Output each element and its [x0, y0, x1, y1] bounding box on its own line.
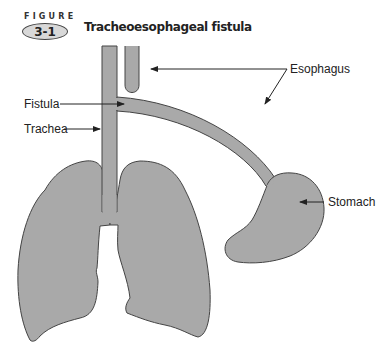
label-fistula: Fistula [24, 97, 60, 111]
label-stomach: Stomach [328, 195, 375, 209]
upper-esophagus [125, 46, 139, 93]
left-lung [18, 161, 110, 341]
right-lung [110, 161, 210, 337]
anatomy-diagram: Esophagus Fistula Trachea Stomach [0, 0, 388, 363]
label-trachea: Trachea [24, 122, 68, 136]
stomach [225, 173, 324, 263]
label-esophagus: Esophagus [290, 62, 350, 76]
trachea [102, 46, 117, 212]
